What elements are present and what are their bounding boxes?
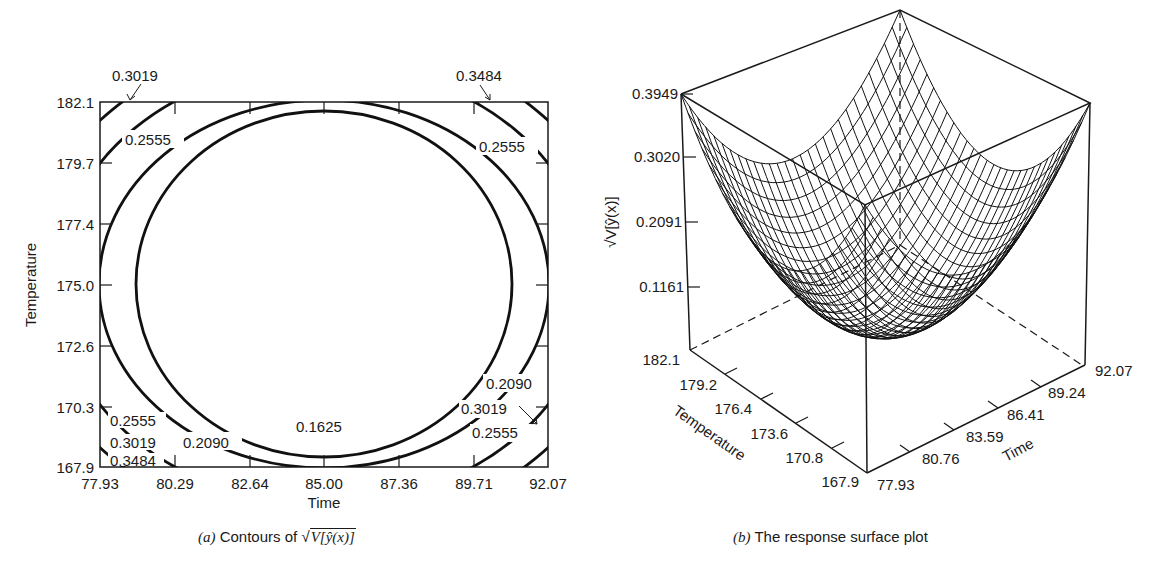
caption-a-math: V[ŷ(x)] <box>310 528 356 545</box>
time-tick-labels: 77.93 80.76 83.59 86.41 89.24 92.07 <box>877 362 1133 493</box>
temperature-tick-label: 167.9 <box>821 473 859 490</box>
contour-label: 0.3019 <box>461 400 507 417</box>
caption-b-text: The response surface plot <box>751 528 928 545</box>
temperature-tick-label: 179.2 <box>679 376 717 393</box>
caption-b-prefix: (b) <box>733 529 751 545</box>
time-tick-label: 86.41 <box>1007 406 1045 423</box>
contour-label: 0.3484 <box>110 452 156 469</box>
x-tick-labels: 77.93 80.29 82.64 85.00 87.36 89.71 92.0… <box>81 475 567 492</box>
x-tick-label: 80.29 <box>156 475 194 492</box>
y-tick-label: 175.0 <box>56 277 94 294</box>
z-tick-label: 0.1161 <box>639 278 684 295</box>
contour-label: 0.1625 <box>296 418 342 435</box>
x-tick-label: 89.71 <box>455 475 493 492</box>
contour-0.1625 <box>136 111 512 457</box>
time-tick-label: 89.24 <box>1048 384 1086 401</box>
time-tick-label: 92.07 <box>1095 362 1133 379</box>
contour-label: 0.3484 <box>456 67 502 84</box>
y-tick-label: 179.7 <box>56 155 94 172</box>
x-tick-label: 87.36 <box>380 475 418 492</box>
z-tick-labels: 0.3949 0.3020 0.2091 0.1161 <box>632 85 684 295</box>
time-tick-label: 83.59 <box>966 428 1004 445</box>
x-tick-label: 92.07 <box>529 475 567 492</box>
x-tick-label: 77.93 <box>81 475 119 492</box>
surface-plot: 0.3949 0.3020 0.2091 0.1161 √V[ŷ(x)] 182… <box>602 10 1133 493</box>
surface-mesh <box>681 10 1090 339</box>
y-tick-label: 172.6 <box>56 338 94 355</box>
sqrt-symbol: √ <box>301 528 309 545</box>
contour-label: 0.3019 <box>110 434 156 451</box>
x-tick-label: 85.00 <box>305 475 343 492</box>
temperature-tick-label: 176.4 <box>714 400 752 417</box>
caption-a-text: Contours of <box>216 528 302 545</box>
time-axis-label: Time <box>999 434 1036 464</box>
y-tick-label: 170.3 <box>56 399 94 416</box>
x-axis-label: Time <box>308 494 341 511</box>
y-axis-label: Temperature <box>22 243 39 327</box>
contour-corner-arcs <box>0 13 654 555</box>
temperature-tick-label: 170.8 <box>785 449 823 466</box>
y-tick-labels: 182.1 179.7 177.4 175.0 172.6 170.3 167.… <box>56 94 94 476</box>
y-tick-label: 182.1 <box>56 94 94 111</box>
contour-label: 0.2555 <box>110 412 156 429</box>
z-tick-label: 0.2091 <box>636 213 682 230</box>
time-tick-label: 77.93 <box>877 476 915 493</box>
contour-label: 0.3019 <box>112 67 158 84</box>
label-arrows <box>127 84 537 424</box>
contour-label: 0.2090 <box>486 375 532 392</box>
z-axis-label: √V[ŷ(x)] <box>602 196 619 248</box>
contour-label: 0.2090 <box>183 434 229 451</box>
z-tick-label: 0.3949 <box>632 85 678 102</box>
caption-a-prefix: (a) <box>198 529 216 545</box>
contour-plot: 182.1 179.7 177.4 175.0 172.6 170.3 167.… <box>0 13 654 555</box>
figure-canvas: 182.1 179.7 177.4 175.0 172.6 170.3 167.… <box>0 0 1159 570</box>
y-tick-label: 177.4 <box>56 216 94 233</box>
z-tick-label: 0.3020 <box>634 148 680 165</box>
caption-b: (b) The response surface plot <box>733 528 928 546</box>
time-tick-label: 80.76 <box>922 450 960 467</box>
contour-lines <box>0 13 654 555</box>
contour-label: 0.2555 <box>125 131 171 148</box>
temperature-tick-labels: 182.1 179.2 176.4 173.6 170.8 167.9 <box>642 351 859 490</box>
contour-labels: 0.3019 0.3484 0.2555 0.2555 0.2555 0.301… <box>110 67 532 469</box>
y-tick-label: 167.9 <box>56 459 94 476</box>
temperature-tick-label: 173.6 <box>750 425 788 442</box>
contour-label: 0.2555 <box>472 424 518 441</box>
temperature-tick-label: 182.1 <box>642 351 680 368</box>
contour-label: 0.2555 <box>479 138 525 155</box>
caption-a: (a) Contours of √V[ŷ(x)] <box>198 528 356 546</box>
x-tick-label: 82.64 <box>231 475 269 492</box>
